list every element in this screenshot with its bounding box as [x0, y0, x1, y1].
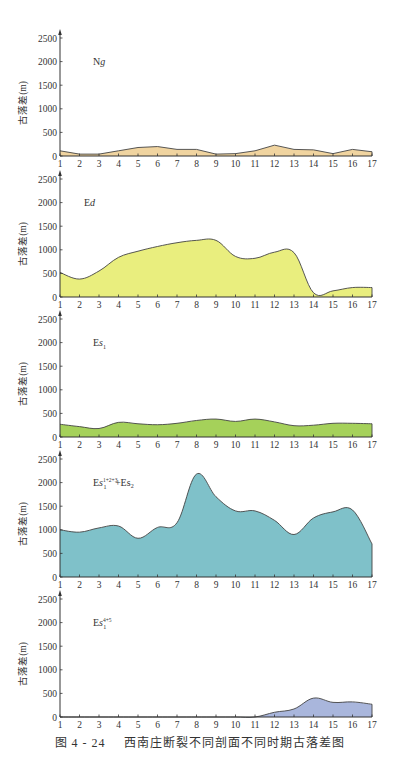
x-tick-label: 16: [348, 300, 358, 310]
x-tick-label: 9: [214, 300, 219, 310]
x-tick-label: 9: [214, 720, 219, 730]
y-tick-label: 1000: [38, 385, 57, 395]
chart-panel-5: 0500100015002000250012345678910111213141…: [17, 590, 377, 730]
x-tick-label: 9: [214, 159, 219, 169]
x-tick-label: 13: [289, 159, 299, 169]
y-tick-label: 2500: [38, 595, 57, 605]
area-fill: [60, 239, 372, 297]
y-tick-label: 500: [43, 409, 58, 419]
x-tick-label: 8: [194, 440, 199, 450]
figure: 0500100015002000250012345678910111213141…: [0, 0, 399, 777]
y-tick-label: 0: [52, 433, 57, 443]
y-axis-arrow-icon: [58, 450, 62, 456]
y-tick-label: 2500: [38, 175, 57, 185]
series-label: Es1: [93, 337, 106, 350]
x-tick-label: 3: [97, 440, 102, 450]
y-tick-label: 2000: [38, 478, 57, 488]
x-tick-label: 5: [136, 159, 141, 169]
y-axis-title: 古落差(m): [17, 502, 29, 546]
x-tick-label: 16: [348, 440, 358, 450]
x-tick-label: 6: [155, 300, 160, 310]
x-tick-label: 15: [328, 580, 338, 590]
x-tick-label: 9: [214, 580, 219, 590]
x-tick-label: 13: [289, 300, 299, 310]
series-label: Es4+51: [93, 617, 112, 630]
x-tick-label: 1: [58, 580, 63, 590]
x-tick-label: 7: [175, 159, 180, 169]
x-tick-label: 8: [194, 159, 199, 169]
y-tick-label: 2500: [38, 455, 57, 465]
y-tick-label: 1500: [38, 642, 57, 652]
y-axis-title: 古落差(m): [17, 362, 29, 406]
x-tick-label: 11: [250, 300, 259, 310]
y-axis-arrow-icon: [58, 590, 62, 596]
y-axis-arrow-icon: [58, 170, 62, 176]
x-tick-label: 9: [214, 440, 219, 450]
x-tick-label: 6: [155, 580, 160, 590]
x-tick-label: 2: [77, 720, 82, 730]
figure-number: 图 4 - 24: [55, 736, 106, 750]
x-tick-label: 12: [270, 440, 280, 450]
x-tick-label: 2: [77, 440, 82, 450]
x-tick-label: 1: [58, 440, 63, 450]
area-fill: [60, 473, 372, 577]
x-tick-label: 7: [175, 300, 180, 310]
x-tick-label: 2: [77, 159, 82, 169]
x-tick-label: 17: [367, 300, 377, 310]
y-tick-label: 1500: [38, 362, 57, 372]
y-tick-label: 2000: [38, 618, 57, 628]
y-tick-label: 1500: [38, 81, 57, 91]
x-tick-label: 4: [116, 300, 121, 310]
x-tick-label: 3: [97, 580, 102, 590]
x-tick-label: 3: [97, 720, 102, 730]
y-axis-title: 古落差(m): [17, 222, 29, 266]
paleo-throw-charts: 0500100015002000250012345678910111213141…: [0, 0, 399, 730]
y-tick-label: 500: [43, 269, 58, 279]
series-label: Ed: [84, 197, 96, 208]
y-axis-title: 古落差(m): [17, 81, 29, 125]
x-tick-label: 14: [309, 300, 319, 310]
y-tick-label: 500: [43, 689, 58, 699]
y-tick-label: 0: [52, 152, 57, 162]
x-tick-label: 6: [155, 720, 160, 730]
x-tick-label: 11: [250, 440, 259, 450]
y-tick-label: 500: [43, 549, 58, 559]
y-tick-label: 2000: [38, 338, 57, 348]
chart-panel-2: 0500100015002000250012345678910111213141…: [17, 170, 377, 310]
x-tick-label: 14: [309, 159, 319, 169]
y-axis-title: 古落差(m): [17, 642, 29, 686]
area-fill: [60, 419, 372, 437]
x-tick-label: 2: [77, 580, 82, 590]
x-tick-label: 6: [155, 440, 160, 450]
y-tick-label: 1000: [38, 245, 57, 255]
x-tick-label: 17: [367, 720, 377, 730]
x-tick-label: 16: [348, 580, 358, 590]
x-tick-label: 7: [175, 720, 180, 730]
x-tick-label: 14: [309, 440, 319, 450]
y-tick-label: 2500: [38, 315, 57, 325]
x-tick-label: 11: [250, 159, 259, 169]
x-tick-label: 14: [309, 580, 319, 590]
series-label: Ng: [93, 56, 105, 67]
x-tick-label: 5: [136, 440, 141, 450]
x-tick-label: 16: [348, 720, 358, 730]
x-tick-label: 1: [58, 159, 63, 169]
x-tick-label: 11: [250, 720, 259, 730]
x-tick-label: 4: [116, 720, 121, 730]
x-tick-label: 15: [328, 720, 338, 730]
y-axis-arrow-icon: [58, 310, 62, 316]
chart-panel-1: 0500100015002000250012345678910111213141…: [17, 29, 377, 169]
x-tick-label: 7: [175, 440, 180, 450]
x-tick-label: 5: [136, 300, 141, 310]
x-tick-label: 6: [155, 159, 160, 169]
x-tick-label: 16: [348, 159, 358, 169]
y-tick-label: 2500: [38, 34, 57, 44]
chart-panel-4: 0500100015002000250012345678910111213141…: [17, 450, 377, 590]
x-tick-label: 12: [270, 300, 280, 310]
x-tick-label: 12: [270, 720, 280, 730]
x-tick-label: 12: [270, 580, 280, 590]
x-tick-label: 15: [328, 159, 338, 169]
y-tick-label: 1000: [38, 104, 57, 114]
x-tick-label: 17: [367, 440, 377, 450]
x-tick-label: 10: [231, 300, 241, 310]
